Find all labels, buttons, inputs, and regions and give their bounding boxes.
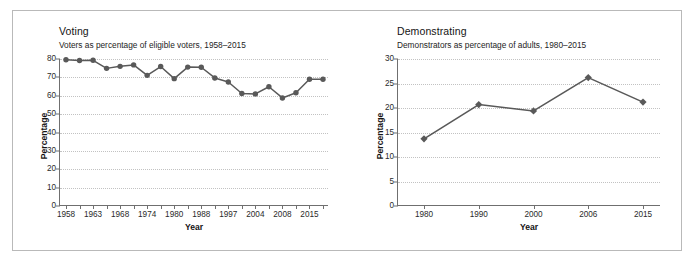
y-tick-label: 15 <box>385 128 394 136</box>
figure-canvas: Voting Voters as percentage of eligible … <box>0 0 695 262</box>
y-tick-label: 40 <box>47 128 56 136</box>
data-point-marker <box>530 107 537 114</box>
x-tick-label: 2015 <box>634 211 652 219</box>
y-axis-title-demonstrating: Percentage <box>375 106 385 166</box>
data-point-marker <box>293 90 298 95</box>
y-tick-label: 0 <box>51 202 56 210</box>
y-tick-label: 0 <box>389 202 394 210</box>
chart-subtitle-demonstrating: Demonstrators as percentage of adults, 1… <box>397 40 586 50</box>
data-point-marker <box>585 74 592 81</box>
chart-panel-demonstrating: Demonstrating Demonstrators as percentag… <box>353 11 683 250</box>
y-tick-label: 10 <box>47 184 56 192</box>
data-point-marker <box>77 58 82 63</box>
plot-area-demonstrating: 05101520253019801990200020062015 Year <box>397 59 660 206</box>
x-tick-label: 1958 <box>57 211 75 219</box>
data-point-marker <box>144 73 149 78</box>
y-tick-label: 30 <box>385 55 394 63</box>
y-tick-label: 20 <box>47 165 56 173</box>
chart-panel-voting: Voting Voters as percentage of eligible … <box>23 11 353 250</box>
data-point-marker <box>307 77 312 82</box>
y-tick-label: 80 <box>47 55 56 63</box>
x-tick-label: 1988 <box>192 211 210 219</box>
y-tick-label: 25 <box>385 79 394 87</box>
y-tick-label: 60 <box>47 92 56 100</box>
x-tick-label: 2008 <box>273 211 291 219</box>
x-axis-title-demonstrating: Year <box>520 222 538 232</box>
data-point-marker <box>131 62 136 67</box>
chart-panels: Voting Voters as percentage of eligible … <box>13 11 681 250</box>
x-tick-label: 1974 <box>138 211 156 219</box>
data-point-marker <box>63 57 68 62</box>
x-tick-label: 1980 <box>165 211 183 219</box>
data-point-marker <box>253 91 258 96</box>
x-tick-label: 1997 <box>219 211 237 219</box>
x-tick-label: 2004 <box>246 211 264 219</box>
y-tick-label: 30 <box>47 147 56 155</box>
x-tick-label: 1990 <box>470 211 488 219</box>
data-point-marker <box>104 66 109 71</box>
y-tick-label: 5 <box>389 177 394 185</box>
x-tick-label: 1980 <box>415 211 433 219</box>
data-point-marker <box>117 64 122 69</box>
data-point-marker <box>158 64 163 69</box>
chart-title-demonstrating: Demonstrating <box>397 25 467 37</box>
chart-subtitle-voting: Voters as percentage of eligible voters,… <box>59 40 246 50</box>
data-point-marker <box>320 77 325 82</box>
data-point-marker <box>185 64 190 69</box>
figure-frame: Voting Voters as percentage of eligible … <box>12 10 682 251</box>
y-tick-label: 70 <box>47 73 56 81</box>
plot-area-voting: 0102030405060708019581963196819741980198… <box>59 59 328 206</box>
x-tick-label: 2006 <box>579 211 597 219</box>
y-tick-label: 20 <box>385 104 394 112</box>
data-point-marker <box>266 84 271 89</box>
data-point-marker <box>212 75 217 80</box>
data-point-marker <box>226 79 231 84</box>
data-point-marker <box>280 95 285 100</box>
chart-title-voting: Voting <box>59 25 89 37</box>
data-point-marker <box>639 99 646 106</box>
x-axis-title-voting: Year <box>185 222 203 232</box>
x-tick-label: 1963 <box>84 211 102 219</box>
data-point-marker <box>199 65 204 70</box>
data-series-line <box>60 59 329 206</box>
data-point-marker <box>172 76 177 81</box>
x-tick-label: 2015 <box>300 211 318 219</box>
x-tick-label: 1968 <box>111 211 129 219</box>
data-point-marker <box>90 58 95 63</box>
y-tick-label: 50 <box>47 110 56 118</box>
x-tick-label: 2000 <box>524 211 542 219</box>
data-point-marker <box>239 91 244 96</box>
y-tick-label: 10 <box>385 153 394 161</box>
data-series-line <box>398 59 661 206</box>
